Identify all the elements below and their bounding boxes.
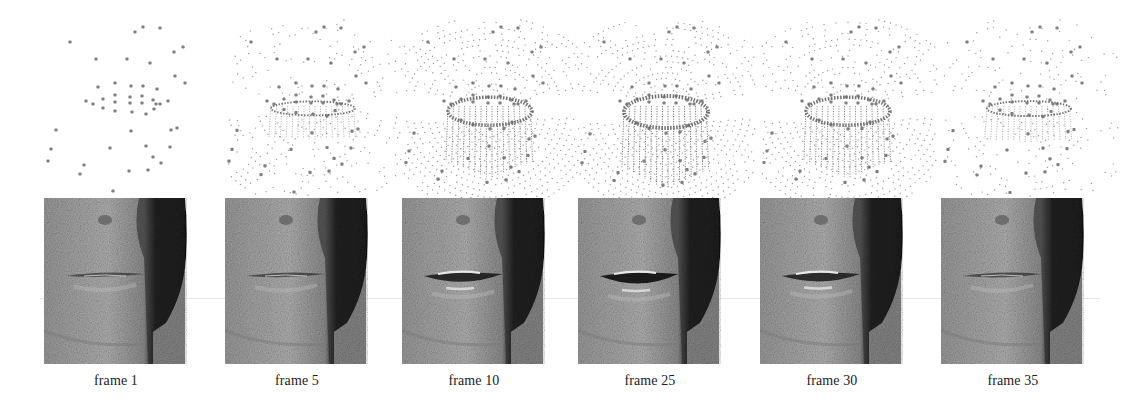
frame-panel-5: frame 30 — [760, 0, 940, 403]
marker-mesh-plot — [941, 0, 1121, 200]
frame-caption: frame 35 — [923, 373, 1103, 389]
rendered-face-image — [44, 198, 187, 364]
frame-panel-2: frame 5 — [225, 0, 405, 403]
rendered-face-image — [760, 198, 903, 364]
rendered-face-image — [402, 198, 545, 364]
frame-caption: frame 10 — [384, 373, 564, 389]
frame-panel-3: frame 10 — [402, 0, 582, 403]
marker-mesh-plot — [44, 0, 224, 200]
frame-panel-4: frame 25 — [578, 0, 758, 403]
marker-mesh-plot — [402, 0, 582, 200]
rendered-face-image — [225, 198, 368, 364]
rendered-face-image — [941, 198, 1084, 364]
frame-caption: frame 25 — [560, 373, 740, 389]
frame-caption: frame 1 — [26, 373, 206, 389]
rendered-face-image — [578, 198, 721, 364]
marker-mesh-plot — [225, 0, 405, 200]
marker-mesh-plot — [760, 0, 940, 200]
marker-mesh-plot — [578, 0, 758, 200]
figure-frame-sequence: frame 1 frame 5 frame 10 frame 25 frame … — [0, 0, 1139, 403]
frame-panel-6: frame 35 — [941, 0, 1121, 403]
frame-caption: frame 30 — [742, 373, 922, 389]
frame-caption: frame 5 — [207, 373, 387, 389]
frame-panel-1: frame 1 — [44, 0, 224, 403]
